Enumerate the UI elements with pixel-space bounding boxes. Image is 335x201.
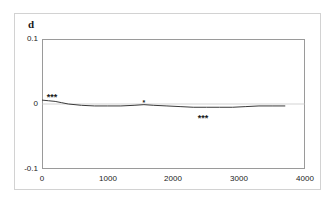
xtick-label-3000: 3000 [219,174,259,183]
significance-marker-start: *** [47,93,58,101]
xtick-label-2000: 2000 [153,174,193,183]
panel-label: d [28,18,34,30]
ytick-label-bottom: -0.1 [8,164,38,173]
figure-panel-d: d 0.1 0 -0.1 0 1000 2000 3000 4000 *** *… [0,0,335,201]
significance-marker-late: *** [198,114,209,122]
significance-marker-mid: * [143,99,146,107]
ytick-label-top: 0.1 [8,34,38,43]
xtick-label-0: 0 [22,174,62,183]
plot-canvas [42,39,305,169]
xtick-label-4000: 4000 [285,174,325,183]
ytick-label-zero: 0 [8,99,38,108]
xtick-label-1000: 1000 [88,174,128,183]
